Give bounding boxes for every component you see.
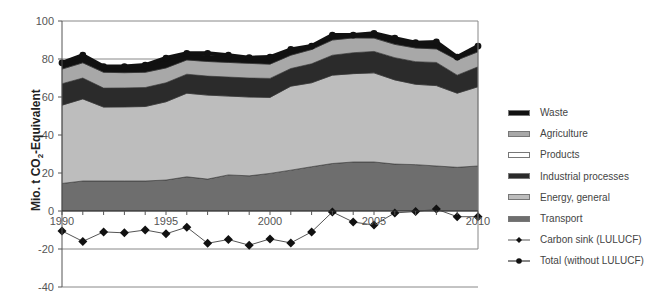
x-tick-label: 1995 [154,215,178,227]
legend-item-industrial: Industrial processes [508,166,652,187]
diamond-marker [224,235,233,244]
legend-label: Agriculture [540,128,588,139]
x-tick-label: 2010 [466,215,490,227]
legend-label: Waste [540,107,568,118]
legend-item-energy: Energy, general [508,187,652,208]
circle-marker [308,43,315,50]
chart-legend: Waste Agriculture Products Industrial pr… [508,102,652,272]
diamond-marker [266,234,275,243]
circle-marker [329,32,336,39]
circle-marker [267,54,274,61]
y-tick-label: -40 [38,281,54,293]
x-tick-label: 2005 [362,215,386,227]
circle-marker [391,35,398,42]
circle-marker [204,50,211,57]
legend-swatch-energy [508,194,530,200]
circle-marker-icon [508,256,530,266]
legend-swatch-agriculture [508,131,530,137]
diamond-marker [203,239,212,248]
circle-marker [142,62,149,69]
circle-marker [454,54,461,61]
y-tick-label: 80 [42,53,54,65]
diamond-marker-icon [508,235,530,245]
diamond-marker [162,229,171,238]
circle-marker [371,30,378,37]
x-tick-label: 1990 [50,215,74,227]
y-tick-label: 40 [42,129,54,141]
diamond-marker [182,223,191,232]
circle-marker [412,39,419,46]
legend-item-carbon-sink: Carbon sink (LULUCF) [508,229,652,250]
diamond-marker [120,228,129,237]
circle-marker [287,46,294,53]
circle-marker [225,52,232,59]
circle-marker [100,63,107,70]
ylabel-tail: -Equivalent [29,89,43,154]
y-tick-label: 100 [36,15,54,27]
legend-item-total: Total (without LULUCF) [508,250,652,271]
diamond-marker [286,238,295,247]
legend-item-agriculture: Agriculture [508,123,652,144]
x-tick-label: 2000 [258,215,282,227]
legend-swatch-transport [508,216,530,222]
diamond-marker [99,227,108,236]
legend-label: Transport [540,213,582,224]
y-axis-title: Mio. t CO2-Equivalent [29,89,45,211]
y-tick-label: 20 [42,167,54,179]
circle-marker [121,63,128,70]
legend-label: Products [540,149,579,160]
svg-text:Mio. t CO2-Equivalent: Mio. t CO2-Equivalent [29,89,45,211]
legend-item-products: Products [508,144,652,165]
diamond-marker [245,241,254,250]
circle-marker [246,54,253,61]
legend-item-transport: Transport [508,208,652,229]
circle-marker [183,50,190,57]
legend-item-waste: Waste [508,102,652,123]
y-tick-label: -20 [38,243,54,255]
legend-label: Industrial processes [540,171,629,182]
diamond-marker [78,237,87,246]
legend-swatch-industrial [508,173,530,179]
y-tick-label: 60 [42,91,54,103]
legend-swatch-waste [508,110,530,116]
legend-label: Carbon sink (LULUCF) [540,234,642,245]
diamond-marker [349,218,358,227]
legend-swatch-products [508,152,530,158]
circle-marker [350,32,357,39]
circle-marker [79,52,86,59]
diamond-marker [141,226,150,235]
circle-marker [163,55,170,62]
circle-marker [433,39,440,46]
ylabel-main: Mio. t CO [29,158,43,211]
legend-label: Total (without LULUCF) [540,255,644,266]
legend-label: Energy, general [540,192,610,203]
